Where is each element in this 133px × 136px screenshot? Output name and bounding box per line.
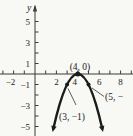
vertex-point-label: (4, 0)	[70, 62, 91, 73]
y-tick-label: −1	[20, 80, 30, 90]
x-tick-label: 4	[73, 77, 78, 87]
parabola-graph: −22468 531−1−3−5 y (4, 0) (3, −1) (5, −	[0, 0, 133, 136]
curve-arrowhead-icon	[51, 126, 56, 132]
x-axis-ticks	[3, 71, 131, 75]
point-dot	[65, 83, 69, 87]
leader-line-left-point	[68, 89, 76, 106]
parabola-figure: −22468 531−1−3−5 y (4, 0) (3, −1) (5, −	[0, 0, 133, 136]
left-point-label: (3, −1)	[59, 112, 85, 123]
point-dot	[87, 83, 91, 87]
y-tick-label: −5	[20, 122, 30, 132]
y-tick-label: 1	[26, 59, 31, 69]
y-tick-label: 5	[26, 17, 31, 27]
point-dot	[75, 72, 80, 77]
x-tick-label: 2	[54, 77, 59, 87]
right-point-label: (5, −	[105, 92, 123, 103]
x-tick-label: 8	[118, 77, 123, 87]
x-tick-label: 6	[97, 77, 102, 87]
x-tick-label: −2	[6, 77, 16, 87]
y-axis-label: y	[26, 3, 32, 13]
curve-arrowheads	[51, 126, 104, 132]
curve-arrowhead-icon	[99, 126, 104, 132]
y-tick-label: 3	[26, 38, 31, 48]
y-axis-arrow-icon	[33, 5, 37, 12]
y-tick-label: −3	[20, 101, 30, 111]
